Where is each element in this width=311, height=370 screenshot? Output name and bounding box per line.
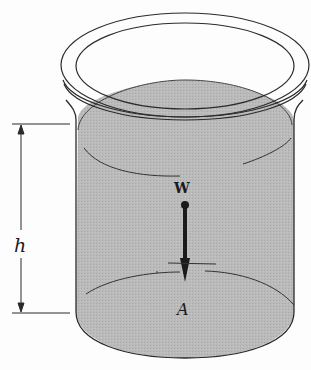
height-label: h — [14, 236, 26, 255]
beaker-illustration — [0, 0, 311, 370]
arrow-down-icon — [18, 303, 24, 312]
area-label: A — [177, 302, 189, 318]
arrow-up-icon — [18, 125, 24, 134]
weight-label: W — [174, 181, 190, 195]
height-dimension — [12, 124, 70, 313]
beaker-diagram: h W A — [0, 0, 311, 370]
